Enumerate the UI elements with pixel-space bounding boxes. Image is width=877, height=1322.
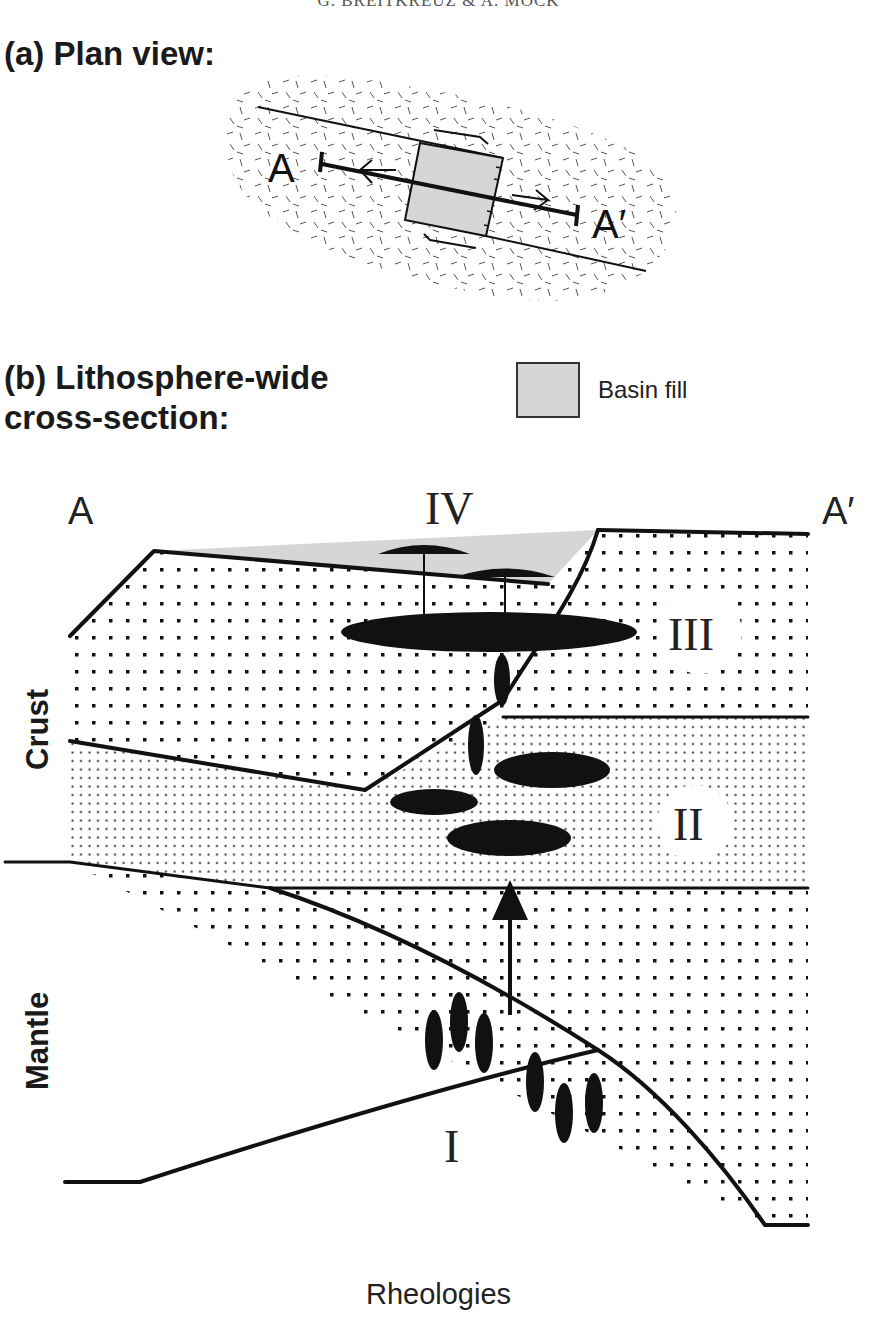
upper-crust-layer: [70, 530, 808, 790]
melt-pod: [526, 1052, 544, 1112]
zone-ii-halo: [657, 785, 733, 861]
lower-crust-layer: [70, 717, 808, 888]
melt-pod: [450, 992, 468, 1052]
magma-sill: [447, 820, 571, 856]
volcanoes: [378, 545, 555, 614]
melt-pod: [425, 1010, 443, 1070]
zone-iii-label: III: [668, 609, 714, 660]
mantle-lithosphere-layer: [70, 862, 808, 1225]
magma-sill: [494, 752, 610, 788]
section-label-a: A: [68, 490, 94, 532]
magma-dike: [494, 654, 510, 706]
basin-fill-label: Basin fill: [598, 376, 687, 404]
basin-fill-swatch: [516, 362, 580, 418]
magma-bodies: [341, 612, 637, 1143]
volcano-cap-icon: [455, 569, 555, 578]
basin-fill-area: [154, 530, 598, 584]
magma-dike: [468, 715, 484, 775]
panel-b-title: (b) Lithosphere-wide cross-section:: [4, 358, 329, 438]
zone-iii-halo: [658, 590, 742, 674]
magma-sill: [390, 789, 478, 815]
magma-chamber-upper: [341, 612, 637, 652]
ascent-arrow-head-icon: [492, 880, 528, 920]
zone-iv-label: IV: [425, 483, 474, 534]
mantle-label: Mantle: [20, 992, 56, 1090]
melt-pod: [555, 1083, 573, 1143]
zone-ii-label: II: [673, 799, 704, 850]
section-end-a-prime: [576, 205, 578, 226]
structure-lines: [5, 530, 808, 1225]
section-label-a-prime: A′: [822, 490, 854, 532]
zone-i-halo: [421, 1111, 489, 1179]
plan-label-a: A: [268, 146, 295, 190]
melt-pod: [585, 1073, 603, 1133]
melt-pod: [475, 1013, 493, 1073]
zone-i-label: I: [444, 1121, 459, 1172]
volcano-cap-icon: [378, 545, 470, 554]
panel-b-title-line2: cross-section:: [4, 398, 329, 438]
legend: Basin fill: [516, 362, 687, 418]
panel-b-title-line1: (b) Lithosphere-wide: [4, 358, 329, 398]
plan-view-diagram: A A′: [0, 0, 877, 330]
x-axis-label: Rheologies: [0, 1278, 877, 1311]
plan-label-a-prime: A′: [592, 202, 626, 246]
crust-label: Crust: [20, 689, 56, 770]
section-end-a: [320, 152, 322, 172]
